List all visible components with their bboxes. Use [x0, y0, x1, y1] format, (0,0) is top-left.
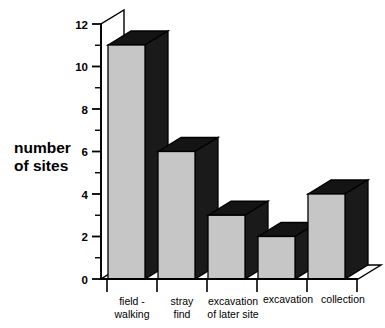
y-axis-title: number of sites [14, 139, 71, 174]
y-tick-label: 0 [82, 274, 88, 286]
y-tick-label: 6 [82, 146, 88, 158]
category-label-field-walking-line2: walking [113, 308, 149, 320]
y-tick-label: 12 [75, 19, 88, 31]
category-label-field-walking-line1: field - [119, 295, 145, 307]
category-label-excavation-later-line2: of later site [207, 308, 259, 320]
bar-chart-figure: 0 2 4 6 8 10 12 number of sites [0, 0, 385, 328]
category-label-stray-find-line2: find [174, 308, 191, 320]
y-tick-label: 2 [82, 231, 88, 243]
bar-collection [308, 180, 368, 279]
y-tick-label: 4 [82, 189, 89, 201]
y-tick-label: 8 [82, 104, 89, 116]
category-label-excavation: excavation [263, 293, 313, 305]
y-tick-label: 10 [75, 61, 88, 73]
chart-canvas: 0 2 4 6 8 10 12 number of sites [0, 0, 385, 328]
y-axis-title-line1: number [14, 139, 71, 156]
y-axis-title-line2: of sites [14, 157, 68, 174]
category-label-stray-find-line1: stray [171, 295, 195, 307]
category-label-collection: collection [321, 293, 365, 305]
category-label-excavation-later-line1: excavation [208, 295, 258, 307]
